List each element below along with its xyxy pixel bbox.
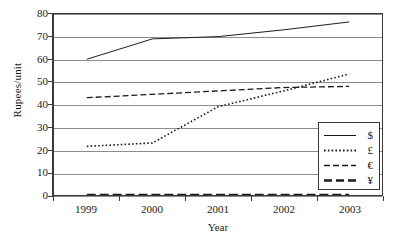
legend-item-dollar: $ xyxy=(323,128,375,143)
x-tick-label: 2002 xyxy=(254,203,314,215)
x-tick-label: 2001 xyxy=(188,203,248,215)
y-tick-label: 50 xyxy=(22,76,48,87)
y-tick-label: 70 xyxy=(22,31,48,42)
x-tick-mark xyxy=(185,196,186,201)
line-chart: Rupees/unit 80 70 60 50 40 30 20 10 0 xyxy=(0,0,401,249)
x-tick-label: 2000 xyxy=(122,203,182,215)
series-line-pound xyxy=(87,74,349,146)
x-axis-title: Year xyxy=(53,221,383,233)
x-tick-mark xyxy=(317,196,318,201)
x-tick-mark xyxy=(119,196,120,201)
y-tick-label: 60 xyxy=(22,54,48,65)
y-tick-label: 10 xyxy=(22,167,48,178)
y-tick-label: 40 xyxy=(22,99,48,110)
x-tick-label: 1999 xyxy=(56,203,116,215)
legend-line-bold-dashed-icon xyxy=(323,176,357,185)
x-tick-mark xyxy=(53,196,54,201)
y-axis-tick-labels: 80 70 60 50 40 30 20 10 0 xyxy=(22,0,48,249)
legend-item-euro: € xyxy=(323,158,375,173)
series-line-dollar xyxy=(87,22,349,59)
legend-line-dashed-icon xyxy=(323,161,357,170)
gridline xyxy=(54,196,382,197)
y-tick-label: 80 xyxy=(22,8,48,19)
x-tick-label: 2003 xyxy=(320,203,380,215)
chart-legend: $ £ € ¥ xyxy=(318,122,380,190)
x-tick-mark xyxy=(251,196,252,201)
legend-item-pound: £ xyxy=(323,143,375,158)
legend-label: € xyxy=(357,160,375,171)
legend-label: $ xyxy=(357,130,375,141)
legend-item-yen: ¥ xyxy=(323,173,375,188)
series-line-euro xyxy=(87,86,349,97)
legend-label: £ xyxy=(357,145,375,156)
legend-label: ¥ xyxy=(357,175,375,186)
y-tick-label: 0 xyxy=(22,190,48,201)
y-tick-label: 20 xyxy=(22,145,48,156)
y-tick-label: 30 xyxy=(22,122,48,133)
legend-line-dotted-icon xyxy=(323,146,357,155)
legend-line-solid-icon xyxy=(323,131,357,140)
x-tick-mark xyxy=(383,196,384,201)
